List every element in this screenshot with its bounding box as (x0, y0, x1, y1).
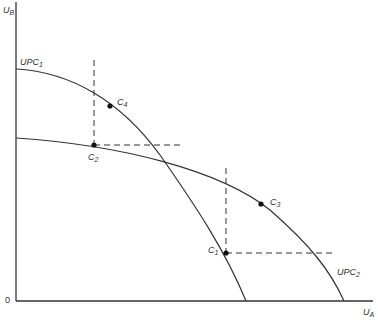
upc2-label: UPC2 (337, 268, 360, 278)
c3-label: C3 (270, 198, 280, 208)
point-c2 (91, 142, 96, 147)
upc2-label-sub: 2 (356, 271, 360, 278)
upc1-label-sub: 1 (39, 61, 43, 68)
c3-label-sub: 3 (277, 201, 281, 208)
upc-diagram: UB UA 0 UPC1 UPC2 C1 C2 C3 C4 (0, 0, 378, 322)
x-axis-label: UA (363, 308, 374, 318)
y-axis-label-sub: B (10, 9, 15, 16)
c1-label-sub: 1 (215, 249, 219, 256)
c2-label: C2 (88, 153, 98, 163)
c1-label: C1 (208, 246, 218, 256)
c4-label-sub: 4 (124, 101, 128, 108)
x-axis-label-sub: A (370, 311, 375, 318)
point-c3 (258, 201, 263, 206)
diagram-canvas (0, 0, 378, 322)
c2-label-sub: 2 (95, 156, 99, 163)
upc2-curve (16, 138, 344, 301)
upc1-label: UPC1 (20, 58, 43, 68)
upc1-label-main: UPC (20, 57, 39, 67)
upc2-label-main: UPC (337, 267, 356, 277)
point-c4 (107, 103, 112, 108)
c4-label: C4 (117, 98, 127, 108)
y-axis-label: UB (3, 6, 14, 16)
point-c1 (223, 250, 228, 255)
upc1-curve (16, 69, 246, 301)
origin-label: 0 (5, 296, 10, 305)
